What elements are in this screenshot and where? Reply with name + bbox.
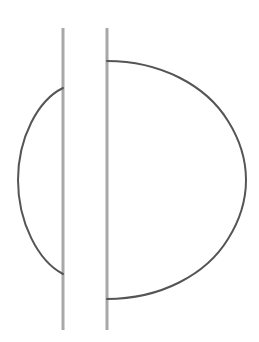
canvas-background bbox=[0, 0, 259, 342]
figure-svg bbox=[0, 0, 259, 342]
drawing-canvas bbox=[0, 0, 259, 342]
